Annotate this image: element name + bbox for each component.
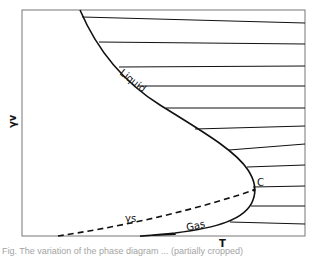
phase-diagram-figure: C Liquid Gas γs γv T	[0, 0, 315, 257]
tie-line	[99, 42, 305, 44]
phase-diagram-svg: C Liquid Gas γs γv T	[0, 0, 315, 257]
tie-line	[119, 66, 305, 67]
critical-point-marker	[252, 188, 255, 191]
tie-line	[247, 165, 305, 167]
figure-caption: Fig. The variation of the phase diagram …	[2, 246, 313, 257]
tie-line	[195, 126, 305, 129]
tie-line	[229, 144, 305, 150]
tie-line	[82, 17, 305, 23]
tie-lines	[82, 17, 305, 224]
gas-label: Gas	[185, 218, 206, 233]
gamma-s-label: γs	[125, 213, 136, 224]
tie-line	[230, 222, 305, 224]
critical-point-label: C	[257, 177, 264, 188]
gamma-s-dashed-curve	[58, 190, 254, 236]
coexistence-curve	[80, 10, 255, 236]
liquid-label: Liquid	[118, 67, 149, 94]
y-axis-label: γv	[7, 114, 18, 128]
